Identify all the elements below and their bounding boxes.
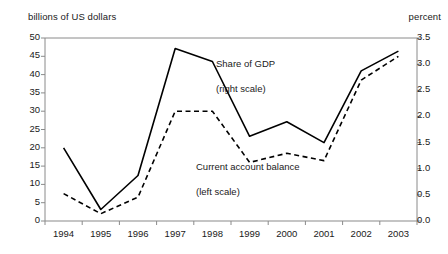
- x-axis-tick-label: 1997: [155, 229, 195, 239]
- annotation-dashed-line2: (left scale): [196, 186, 240, 197]
- annotation-solid-line1: Share of GDP: [216, 58, 275, 69]
- annotation-current-account-balance: Current account balance (left scale): [196, 148, 300, 198]
- chart-container: billions of US dollars percent 051015202…: [0, 0, 448, 254]
- x-axis-tick-label: 2000: [267, 229, 307, 239]
- x-axis-tick-label: 2003: [378, 229, 418, 239]
- x-axis-labels: 1994199519961997199819992000200120022003: [0, 0, 448, 254]
- x-axis-tick-label: 1994: [44, 229, 84, 239]
- annotation-solid-line2: (right scale): [216, 83, 266, 94]
- x-axis-tick-label: 2001: [304, 229, 344, 239]
- x-axis-tick-label: 1996: [118, 229, 158, 239]
- x-axis-tick-label: 1999: [230, 229, 270, 239]
- x-axis-tick-label: 2002: [341, 229, 381, 239]
- annotation-dashed-line1: Current account balance: [196, 161, 300, 172]
- x-axis-tick-label: 1995: [81, 229, 121, 239]
- x-axis-tick-label: 1998: [192, 229, 232, 239]
- annotation-share-of-gdp: Share of GDP (right scale): [216, 45, 275, 95]
